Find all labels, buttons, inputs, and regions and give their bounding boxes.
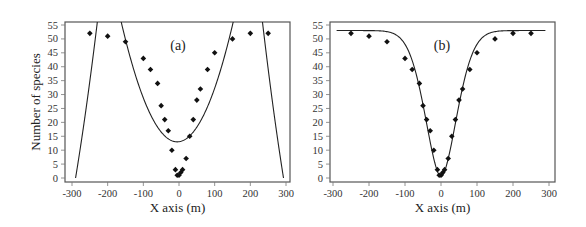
y-tick-label: 5 — [53, 159, 58, 170]
y-tick-label: 40 — [48, 61, 59, 72]
y-tick-label: 15 — [48, 131, 59, 142]
x-tick-label: -200 — [98, 188, 117, 199]
data-point — [169, 147, 175, 153]
x-tick-label: 0 — [438, 188, 443, 199]
y-tick-label: 10 — [48, 145, 59, 156]
chart-panel-b: 0510152025303540455055-300-200-100010020… — [313, 20, 557, 216]
data-point — [166, 128, 172, 134]
data-point — [456, 97, 462, 103]
data-point — [190, 117, 196, 123]
y-tick-label: 45 — [48, 47, 59, 58]
y-tick-label: 40 — [313, 61, 324, 72]
y-tick-label: 20 — [313, 117, 324, 128]
y-tick-label: 0 — [53, 173, 58, 184]
x-tick-label: 100 — [207, 188, 223, 199]
x-tick-label: 200 — [242, 188, 258, 199]
data-point — [148, 67, 154, 73]
y-tick-label: 15 — [313, 131, 324, 142]
data-point — [402, 56, 408, 62]
data-point — [158, 103, 164, 109]
y-tick-label: 30 — [48, 89, 59, 100]
x-axis-label: X axis (m) — [415, 200, 471, 215]
panel-label: (b) — [434, 38, 451, 54]
x-tick-label: 0 — [176, 188, 181, 199]
data-point — [453, 117, 459, 123]
y-tick-label: 5 — [318, 159, 323, 170]
data-point — [424, 117, 430, 123]
y-axis-label: Number of species — [28, 53, 43, 150]
fit-curve — [76, 0, 284, 178]
data-point — [366, 33, 372, 39]
data-point — [173, 167, 179, 173]
y-tick-label: 35 — [313, 75, 324, 86]
data-point — [123, 39, 129, 45]
y-tick-label: 45 — [313, 47, 324, 58]
data-point — [474, 50, 480, 56]
panel-label: (a) — [170, 38, 186, 54]
data-point — [528, 31, 534, 37]
y-tick-label: 50 — [313, 33, 324, 44]
data-point — [248, 31, 254, 37]
x-tick-label: 300 — [541, 188, 557, 199]
x-tick-label: -100 — [395, 188, 414, 199]
y-tick-label: 50 — [48, 33, 59, 44]
data-point — [162, 117, 168, 123]
data-point — [492, 36, 498, 42]
data-point — [105, 33, 111, 39]
x-tick-label: 200 — [505, 188, 521, 199]
data-point — [230, 36, 236, 42]
y-tick-label: 10 — [313, 145, 324, 156]
data-point — [384, 39, 390, 45]
y-tick-label: 35 — [48, 75, 59, 86]
y-tick-label: 55 — [313, 20, 324, 31]
data-point — [348, 31, 354, 37]
data-point — [510, 31, 516, 37]
figure: 0510152025303540455055-300-200-100010020… — [0, 0, 586, 227]
x-tick-label: -100 — [134, 188, 153, 199]
x-axis-label: X axis (m) — [150, 200, 206, 215]
data-point — [445, 156, 451, 162]
chart-panel-a: 0510152025303540455055-300-200-100010020… — [28, 0, 294, 215]
data-point — [265, 31, 271, 37]
y-tick-label: 20 — [48, 117, 59, 128]
data-point — [417, 81, 423, 87]
data-point — [435, 167, 441, 173]
data-point — [155, 81, 161, 87]
x-tick-label: -200 — [359, 188, 378, 199]
data-point — [198, 86, 204, 92]
data-point — [141, 56, 147, 62]
data-point — [183, 156, 189, 162]
x-tick-label: -300 — [323, 188, 342, 199]
x-tick-label: 100 — [469, 188, 485, 199]
y-tick-label: 55 — [48, 20, 59, 31]
y-tick-label: 30 — [313, 89, 324, 100]
x-tick-label: 300 — [278, 188, 294, 199]
data-point — [460, 86, 466, 92]
data-point — [194, 97, 200, 103]
y-tick-label: 25 — [48, 103, 59, 114]
x-tick-label: -300 — [62, 188, 81, 199]
data-point — [420, 103, 426, 109]
data-point — [212, 50, 218, 56]
data-point — [87, 31, 93, 37]
data-point — [205, 67, 211, 73]
y-tick-label: 0 — [318, 173, 323, 184]
y-tick-label: 25 — [313, 103, 324, 114]
